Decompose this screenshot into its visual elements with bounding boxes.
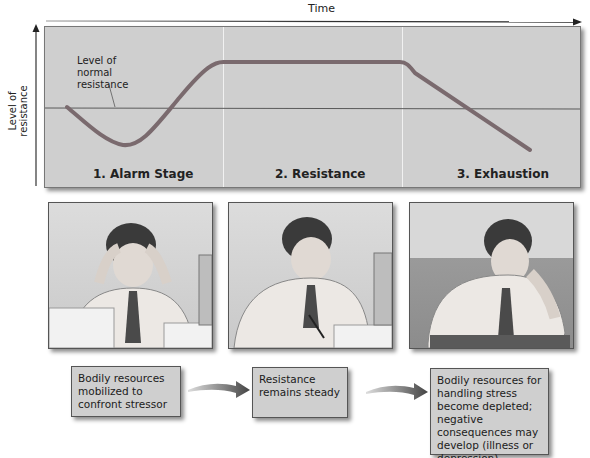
- stage-label-resistance: 2. Resistance: [275, 167, 366, 181]
- flow-arrow-icon: [364, 380, 430, 402]
- alarm-description-box: Bodily resources mobilized to confront s…: [71, 366, 181, 417]
- flow-arrow-icon: [186, 378, 252, 400]
- resistance-chart: Level of normal resistance 1. Alarm Stag…: [44, 26, 581, 188]
- resistance-stage-illustration: [228, 202, 393, 349]
- stage-label-exhaustion: 3. Exhaustion: [457, 167, 549, 181]
- exhaustion-description-box: Bodily resources for handling stress bec…: [430, 368, 549, 455]
- normal-resistance-label: Level of normal resistance: [77, 55, 128, 91]
- alarm-stage-illustration: [48, 202, 213, 349]
- time-axis-arrow: [44, 16, 584, 26]
- y-axis-label: Level ofresistance: [2, 78, 32, 138]
- x-axis-label: Time: [308, 2, 335, 15]
- exhaustion-stage-illustration: [409, 202, 574, 349]
- resistance-description-box: Resistance remains steady: [252, 367, 348, 418]
- stage-label-alarm: 1. Alarm Stage: [93, 167, 193, 181]
- resistance-curve: [45, 27, 580, 187]
